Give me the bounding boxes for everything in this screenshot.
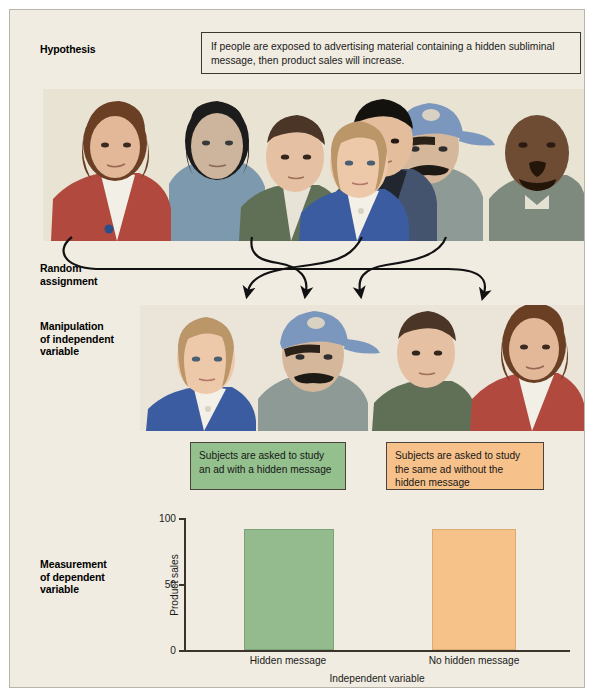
stage-label-hypothesis: Hypothesis — [40, 43, 96, 56]
random-assignment-line-2: assignment — [40, 275, 97, 288]
treatment-box-control: Subjects are asked to study the same ad … — [386, 442, 544, 490]
x-tick-label-1: No hidden message — [406, 655, 542, 666]
treatment-text-control: Subjects are asked to study the same ad … — [395, 450, 520, 488]
bar-chart: 0 50 100 Hidden message No hidden messag… — [140, 508, 580, 683]
stage-label-measurement: Measurement of dependent variable — [40, 558, 107, 596]
chart-plot-area: 0 50 100 Hidden message No hidden messag… — [184, 518, 570, 652]
stage-label-random-assignment: Random assignment — [40, 262, 97, 287]
y-axis-label: Product sales — [169, 554, 180, 616]
treatment-box-experimental: Subjects are asked to study an ad with a… — [190, 442, 346, 490]
bar-no-hidden-message — [432, 529, 516, 650]
measurement-line-3: variable — [40, 583, 107, 596]
manipulation-line-3: variable — [40, 345, 114, 358]
x-axis-label: Independent variable — [184, 673, 570, 684]
measurement-line-2: of dependent — [40, 571, 107, 584]
manipulation-line-1: Manipulation — [40, 320, 114, 333]
random-assignment-line-1: Random — [40, 262, 97, 275]
x-axis — [184, 650, 570, 652]
sample-group-svg — [43, 89, 585, 241]
hypothesis-text: If people are exposed to advertising mat… — [211, 40, 571, 67]
figure-panel: Hypothesis If people are exposed to adve… — [9, 9, 585, 688]
x-tick-label-0: Hidden message — [222, 655, 354, 666]
stage-label-manipulation: Manipulation of independent variable — [40, 320, 114, 358]
treatment-text-experimental: Subjects are asked to study an ad with a… — [199, 450, 332, 475]
y-tick-mark-1 — [179, 584, 184, 586]
manipulation-line-2: of independent — [40, 333, 114, 346]
hypothesis-box: If people are exposed to advertising mat… — [201, 32, 581, 74]
assigned-groups-illustration — [140, 305, 585, 431]
y-axis — [184, 518, 186, 652]
y-tick-label-0: 0 — [170, 645, 176, 656]
measurement-line-1: Measurement — [40, 558, 107, 571]
sample-group-illustration — [43, 89, 585, 241]
y-tick-mark-2 — [179, 518, 184, 520]
y-tick-mark-0 — [179, 650, 184, 652]
assigned-groups-svg — [140, 305, 585, 431]
y-tick-label-2: 100 — [159, 513, 176, 524]
bar-hidden-message — [244, 529, 334, 650]
